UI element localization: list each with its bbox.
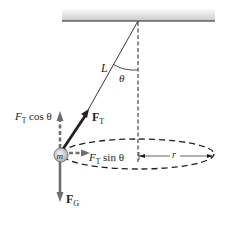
angle-label: θ bbox=[119, 72, 125, 84]
gravity-label-main: F bbox=[66, 192, 73, 206]
tension-label-main: F bbox=[92, 110, 99, 124]
angle-arc bbox=[114, 65, 139, 71]
tension-vertical-component-arrow bbox=[57, 111, 64, 148]
tension-horizontal-label: FT sin θ bbox=[88, 151, 124, 166]
length-label: L bbox=[100, 61, 108, 75]
gravity-label: FG bbox=[66, 192, 79, 208]
mass-label: m bbox=[57, 151, 64, 161]
gravity-arrow bbox=[57, 162, 64, 202]
tension-vertical-label: FT cos θ bbox=[14, 110, 52, 125]
radius-arrow bbox=[139, 150, 213, 160]
tension-horizontal-component-arrow bbox=[69, 150, 90, 157]
pendulum-string bbox=[88, 21, 138, 110]
tension-label-sub: T bbox=[99, 117, 104, 126]
ceiling bbox=[62, 8, 215, 21]
tension-label: FT bbox=[92, 110, 104, 126]
conical-pendulum-diagram: L θ FT FT cos θ FT sin θ FG m r bbox=[0, 0, 232, 226]
tension-horizontal-rest: sin θ bbox=[100, 151, 124, 163]
tension-vertical-rest: cos θ bbox=[26, 110, 51, 122]
gravity-label-sub: G bbox=[73, 199, 79, 208]
radius-label: r bbox=[172, 149, 176, 160]
